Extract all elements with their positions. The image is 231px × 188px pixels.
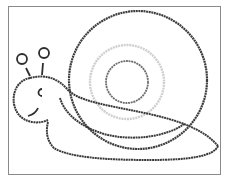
snail-drawing bbox=[0, 0, 231, 188]
eye bbox=[39, 89, 43, 96]
antennae bbox=[17, 48, 49, 76]
mouth bbox=[28, 108, 38, 116]
shell bbox=[69, 11, 207, 149]
